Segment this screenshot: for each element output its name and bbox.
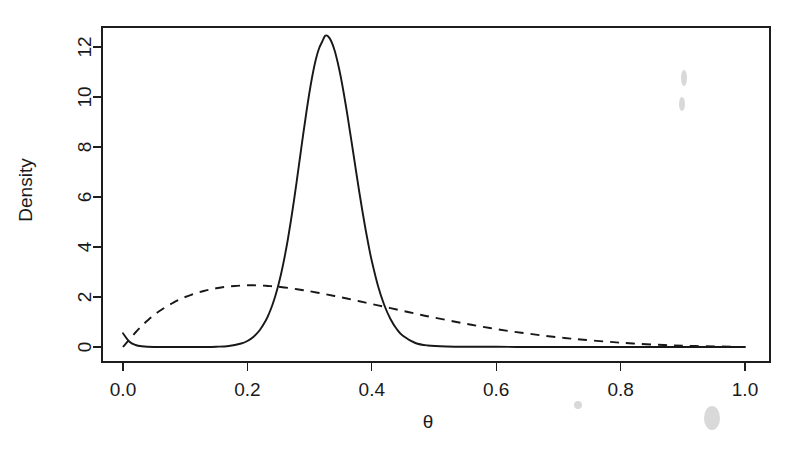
x-tick-label: 1.0 bbox=[732, 379, 758, 400]
plot-canvas: 024681012 0.00.20.40.60.81.0 Density θ bbox=[0, 0, 792, 458]
y-tick-label: 8 bbox=[74, 142, 95, 153]
y-axis-label: Density bbox=[15, 158, 36, 222]
x-axis-label: θ bbox=[423, 411, 434, 432]
y-tick-label: 4 bbox=[74, 241, 95, 252]
y-tick-label: 0 bbox=[74, 342, 95, 353]
x-tick-label: 0.0 bbox=[110, 379, 136, 400]
y-tick-label: 10 bbox=[74, 86, 95, 107]
x-tick-label: 0.8 bbox=[607, 379, 633, 400]
density-plot-figure: 024681012 0.00.20.40.60.81.0 Density θ bbox=[0, 0, 792, 458]
x-tick-label: 0.4 bbox=[359, 379, 386, 400]
y-tick-label: 12 bbox=[74, 36, 95, 57]
x-tick-label: 0.6 bbox=[483, 379, 509, 400]
y-tick-label: 2 bbox=[74, 292, 95, 303]
x-tick-label: 0.2 bbox=[234, 379, 260, 400]
y-tick-label: 6 bbox=[74, 192, 95, 203]
